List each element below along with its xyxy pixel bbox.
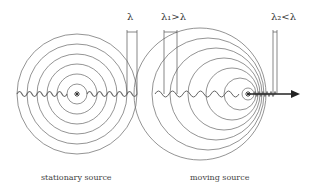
moving-lambda2-marker	[273, 30, 277, 94]
doppler-diagram	[0, 0, 313, 188]
moving-lambda2-label: λ₂<λ	[271, 11, 296, 22]
stationary-wave-left	[17, 92, 67, 97]
stationary-wave-right	[87, 92, 137, 97]
stationary-lambda-label: λ	[127, 11, 133, 22]
stationary-caption: stationary source	[41, 173, 112, 182]
moving-lambda1-marker	[164, 30, 177, 94]
moving-caption: moving source	[190, 173, 249, 182]
moving-wave-behind	[155, 91, 239, 97]
moving-lambda1-label: λ₁>λ	[161, 11, 186, 22]
stationary-source-icon	[74, 91, 80, 97]
stationary-lambda-marker	[127, 30, 137, 94]
